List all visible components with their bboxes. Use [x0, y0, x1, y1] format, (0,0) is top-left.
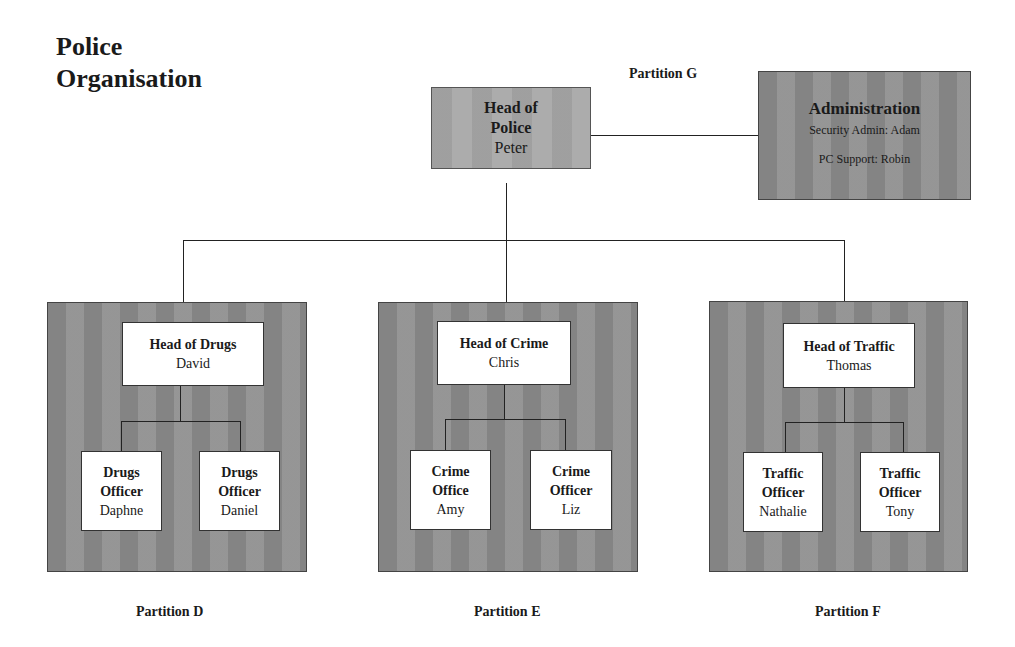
admin-title: Administration	[809, 99, 920, 119]
partition-g-label: Partition G	[629, 66, 697, 82]
partition-e-label: Partition E	[474, 604, 541, 620]
connector-head-down	[506, 183, 507, 302]
connector-to-partition-d	[183, 240, 184, 302]
traffic-officer-nathalie-box: Traffic Officer Nathalie	[743, 452, 823, 532]
title-line-2: Organisation	[56, 63, 202, 95]
head-of-drugs-box: Head of Drugs David	[122, 322, 264, 386]
role: Head of Drugs	[149, 335, 236, 354]
partition-d-label: Partition D	[136, 604, 203, 620]
partition-e-container: Head of Crime Chris Crime Office Amy Cri…	[378, 302, 638, 572]
head-of-crime-box: Head of Crime Chris	[437, 321, 571, 385]
name: David	[176, 354, 210, 373]
connector-horizontal-bus	[183, 240, 845, 241]
admin-pc-support: PC Support: Robin	[819, 152, 910, 167]
connector-head-admin	[591, 135, 758, 136]
partition-f-label: Partition F	[815, 604, 881, 620]
administration-box: Administration Security Admin: Adam PC S…	[758, 71, 971, 200]
head-of-traffic-box: Head of Traffic Thomas	[783, 323, 915, 388]
partition-f-container: Head of Traffic Thomas Traffic Officer N…	[709, 301, 968, 572]
crime-officer-liz-box: Crime Officer Liz	[530, 450, 612, 530]
page-title: Police Organisation	[56, 31, 202, 95]
head-role-line-2: Police	[491, 118, 532, 138]
crime-office-amy-box: Crime Office Amy	[410, 450, 491, 530]
drugs-officer-daphne-box: Drugs Officer Daphne	[81, 451, 162, 531]
connector-to-partition-f	[844, 240, 845, 302]
drugs-officer-daniel-box: Drugs Officer Daniel	[199, 451, 280, 531]
head-of-police-box: Head of Police Peter	[431, 87, 591, 169]
partition-d-container: Head of Drugs David Drugs Officer Daphne…	[47, 302, 307, 572]
head-role-line-1: Head of	[484, 98, 538, 118]
admin-security: Security Admin: Adam	[809, 123, 920, 138]
title-line-1: Police	[56, 31, 202, 63]
traffic-officer-tony-box: Traffic Officer Tony	[860, 452, 940, 532]
head-name: Peter	[495, 138, 528, 158]
